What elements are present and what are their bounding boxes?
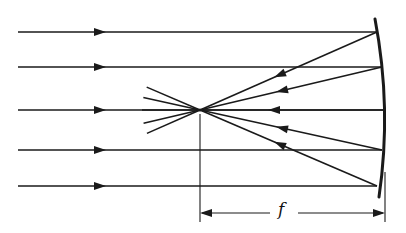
concave-mirror (375, 19, 385, 197)
diverging-ray (143, 98, 200, 110)
diverging-rays-beyond-focus (142, 87, 200, 133)
diverging-ray (147, 110, 200, 133)
dimension-arrow-left-icon (200, 209, 212, 217)
diverging-ray (147, 87, 200, 110)
arrow-right-icon (94, 28, 106, 36)
reflected-ray (200, 110, 377, 186)
reflected-rays (200, 32, 385, 186)
reflected-ray (200, 110, 382, 150)
arrow-left-icon (275, 123, 288, 133)
arrow-right-icon (94, 106, 106, 114)
arrow-left-icon (273, 69, 287, 81)
reflected-ray (200, 67, 382, 110)
arrow-right-icon (94, 63, 106, 71)
arrow-right-icon (94, 146, 106, 154)
arrow-left-icon (273, 138, 287, 150)
focal-point (199, 109, 202, 112)
reflected-ray (200, 32, 377, 110)
concave-mirror-diagram (0, 0, 406, 233)
diverging-ray (144, 110, 200, 123)
arrow-left-icon (275, 85, 289, 96)
arrow-right-icon (94, 182, 106, 190)
dimension-arrow-right-icon (373, 209, 385, 217)
arrow-left-icon (268, 106, 280, 114)
focal-length-label: f (272, 198, 290, 220)
